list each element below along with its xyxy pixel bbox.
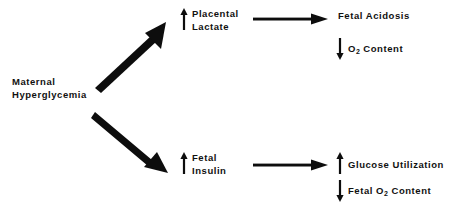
node-fetal-acidosis: Fetal Acidosis [338,10,410,23]
down-arrow-icon [336,38,344,64]
node-fetal-insulin: Fetal Insulin [180,152,226,178]
node-o2-content-subscript: 2 [356,48,360,55]
node-glucose-utilization-label: Glucose Utilization [348,159,444,172]
up-arrow-icon [336,152,344,178]
node-fetal-insulin-line2: Insulin [192,165,226,178]
node-fetal-o2-content: Fetal O2 Content [336,180,431,206]
node-fetal-o2-content-prefix: Fetal O [348,185,384,196]
down-arrow-icon [336,180,344,206]
node-o2-content: O2 Content [336,38,403,64]
pathway-diagram: Maternal Hyperglycemia Placental Lactate… [0,0,473,212]
node-placental-lactate-line2: Lactate [192,21,239,34]
node-o2-content-prefix: O [348,43,356,54]
node-maternal-hyperglycemia-line2: Hyperglycemia [12,89,87,102]
node-glucose-utilization: Glucose Utilization [336,152,444,178]
node-fetal-acidosis-label: Fetal Acidosis [338,10,410,23]
node-maternal-hyperglycemia-line1: Maternal [12,76,87,89]
node-placental-lactate: Placental Lactate [180,8,239,34]
up-arrow-icon [180,8,188,34]
edge-fetal-insulin-to-glucose-utilization-arrow [253,158,335,174]
node-maternal-hyperglycemia: Maternal Hyperglycemia [12,76,87,101]
node-fetal-o2-content-suffix: Content [391,185,431,196]
node-fetal-o2-content-subscript: 2 [384,190,388,197]
node-o2-content-suffix: Content [363,43,403,54]
up-arrow-icon [180,152,188,178]
node-fetal-insulin-line1: Fetal [192,152,226,165]
edge-placental-lactate-to-fetal-acidosis-arrow [253,12,335,28]
node-placental-lactate-line1: Placental [192,8,239,21]
